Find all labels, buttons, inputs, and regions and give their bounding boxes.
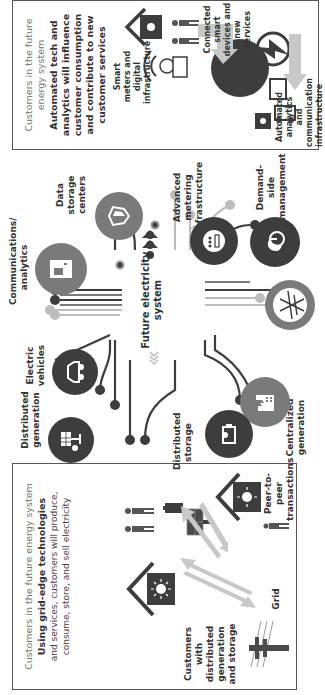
left-panel-grid-edge: Customers in the future energy system Us…: [12, 463, 297, 690]
label-connected-devices: Connected smart devices and new services: [203, 2, 253, 57]
label-distributed-storage: Distributed storage: [172, 415, 194, 470]
shield-icon: [105, 202, 133, 230]
node-data-storage-centers: [95, 192, 143, 240]
node-electric-vehicles: [52, 349, 98, 395]
left-panel-headline: Using grid-edge technologies: [36, 472, 48, 681]
label-smart-meters: Smart meters and digital infrastructure: [113, 49, 153, 104]
label-data-storage-centers: Data storage centers: [55, 165, 88, 225]
car-icon: [61, 358, 89, 386]
right-panel-automated-tech: Customers in the future energy system Au…: [12, 0, 319, 150]
left-panel-title: Customers in the future energy system: [23, 472, 35, 681]
node-distributed-storage: [205, 410, 253, 458]
arrow-down-automated: [281, 34, 309, 94]
power-leaf-icon: [260, 227, 290, 257]
node-distributed-generation: [48, 417, 94, 463]
label-grid: Grid: [271, 584, 281, 614]
people-icon: [123, 499, 163, 539]
node-advanced-metering: [190, 217, 238, 265]
transmission-tower-icon: [270, 285, 310, 325]
meter-icon: [199, 226, 229, 256]
grid-tower-icon: [241, 619, 291, 669]
label-peer-to-peer: Peer-to-peer transactions: [263, 466, 296, 521]
label-electric-vehicles: Electric vehicles: [25, 338, 47, 393]
infographic-canvas: Customers in the future energy system Us…: [0, 0, 325, 695]
center-title: Future electricity system: [140, 250, 164, 350]
factory-icon: [250, 387, 280, 417]
right-panel-headline: Automated tech and analytics will influe…: [48, 5, 108, 145]
safe-icon: [253, 111, 273, 131]
left-panel-body: and services, customers will produce, co…: [48, 472, 72, 681]
label-distributed-generation: Distributed generation: [20, 390, 42, 450]
node-demand-side-management: [250, 217, 300, 267]
label-demand-side-management: Demand-side management: [255, 155, 288, 220]
label-customers-with-distributed-generation: Customers with distributed generation an…: [183, 623, 238, 685]
bidirectional-arrows-grid: [178, 554, 258, 614]
right-panel-title: Customers in the future energy system: [23, 5, 47, 145]
house-solar-icon: [123, 559, 178, 619]
server-icon: [46, 254, 76, 284]
peer-house-solar-icon: [213, 469, 263, 524]
node-communications-analytics: [35, 243, 87, 295]
solar-panel-icon: [57, 426, 85, 454]
bulb-icon: [228, 55, 254, 79]
battery-icon: [214, 419, 244, 449]
ev-car-icon: [271, 102, 299, 124]
label-communications-analytics: Communications/ analytics: [8, 230, 30, 305]
node-transmission: [265, 280, 315, 330]
